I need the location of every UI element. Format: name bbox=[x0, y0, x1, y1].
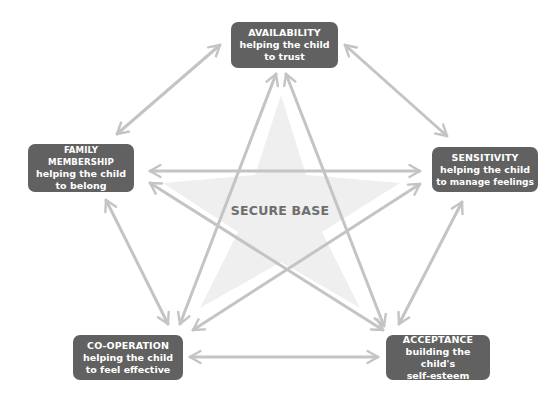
arrow-sensitivity-acceptance bbox=[399, 202, 462, 324]
node-subtitle-line1: helping the child bbox=[440, 164, 530, 176]
node-subtitle-line2: to trust bbox=[264, 51, 305, 63]
center-label: SECURE BASE bbox=[230, 203, 330, 218]
node-subtitle-line2: to feel effective bbox=[86, 364, 171, 376]
node-title: FAMILY MEMBERSHIP bbox=[31, 144, 131, 168]
node-subtitle-line1: helping the child bbox=[83, 352, 173, 364]
node-sensitivity: SENSITIVITY helping the child to manage … bbox=[432, 147, 538, 192]
node-title: AVAILABILITY bbox=[248, 27, 321, 39]
arrow-availability-family bbox=[117, 45, 220, 134]
node-subtitle-line1: building the child's bbox=[389, 346, 487, 370]
arrow-family-cooperation bbox=[106, 200, 168, 324]
node-subtitle-line2: to belong bbox=[56, 180, 107, 192]
arrow-availability-sensitivity bbox=[345, 45, 447, 136]
node-subtitle-line2: self-esteem bbox=[407, 370, 470, 382]
node-title: ACCEPTANCE bbox=[403, 334, 473, 346]
node-availability: AVAILABILITY helping the child to trust bbox=[231, 22, 338, 68]
node-subtitle-line1: helping the child bbox=[239, 39, 329, 51]
node-title: SENSITIVITY bbox=[451, 152, 518, 164]
secure-base-diagram: SECURE BASE AVAILABILITY helping the chi… bbox=[0, 0, 560, 402]
node-subtitle-line2: to manage feelings bbox=[436, 176, 534, 188]
node-family-membership: FAMILY MEMBERSHIP helping the child to b… bbox=[28, 144, 134, 192]
node-acceptance: ACCEPTANCE building the child's self-est… bbox=[386, 335, 490, 380]
node-subtitle-line1: helping the child bbox=[36, 168, 126, 180]
node-title: CO-OPERATION bbox=[87, 340, 169, 352]
node-co-operation: CO-OPERATION helping the child to feel e… bbox=[73, 335, 183, 380]
